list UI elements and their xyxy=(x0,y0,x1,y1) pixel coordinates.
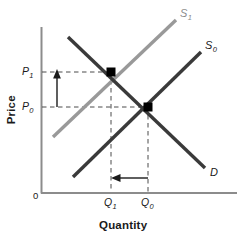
curve-label-s0-subscript: 0 xyxy=(213,45,217,54)
quantity-tick-q0-subscript: 0 xyxy=(149,202,153,211)
price-tick-p0-text: P xyxy=(22,100,29,112)
quantity-tick-q1: Q1 xyxy=(104,197,116,208)
price-tick-p1: P1 xyxy=(22,66,33,77)
y-axis-title: Price xyxy=(6,92,18,128)
curve-label-s1-subscript: 1 xyxy=(188,13,192,22)
price-tick-p0-subscript: 0 xyxy=(29,106,33,115)
supply-curve-s0 xyxy=(73,52,201,177)
quantity-tick-q1-text: Q xyxy=(104,196,112,208)
supply-curve-s1 xyxy=(53,20,176,137)
supply-demand-figure: 0 Price Quantity P1 P0 Q1 Q0 S1 S0 D xyxy=(0,0,248,241)
quantity-decrease-arrow-icon xyxy=(111,174,148,182)
equilibrium-marker-original xyxy=(144,103,153,112)
price-tick-p0: P0 xyxy=(22,101,33,112)
curve-label-d: D xyxy=(210,167,218,178)
curve-label-s0-text: S xyxy=(205,39,212,51)
price-tick-p1-text: P xyxy=(22,65,29,77)
price-tick-p1-subscript: 1 xyxy=(29,71,33,80)
price-increase-arrow-icon xyxy=(53,69,61,107)
diagram-canvas xyxy=(0,0,248,241)
x-axis-title: Quantity xyxy=(99,220,147,232)
quantity-tick-q0: Q0 xyxy=(141,197,153,208)
curve-label-s1: S1 xyxy=(180,8,192,19)
quantity-tick-q0-text: Q xyxy=(141,196,149,208)
curve-label-d-text: D xyxy=(210,166,218,178)
origin-label: 0 xyxy=(33,191,38,201)
curve-label-s0: S0 xyxy=(205,40,217,51)
curve-label-s1-text: S xyxy=(180,7,187,19)
equilibrium-marker-new xyxy=(107,68,116,77)
quantity-tick-q1-subscript: 1 xyxy=(112,202,116,211)
